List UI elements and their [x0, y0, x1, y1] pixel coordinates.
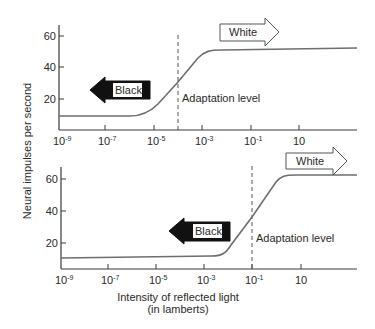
bottom-x-tick-1e-9: 10-9 [55, 274, 74, 286]
bottom-panel: 60 40 20 10-9 10-7 10-5 10-3 10-1 10 Ada [46, 147, 357, 315]
top-y-tick-20: 20 [44, 93, 56, 105]
x-axis-title-line2: (in lamberts) [147, 303, 208, 315]
bottom-y-tick-60: 60 [46, 173, 58, 185]
bottom-x-tick-1e-3: 10-3 [197, 274, 216, 286]
bottom-black-label: Black [195, 225, 222, 237]
top-black-label: Black [115, 84, 142, 96]
bottom-black-arrow: Black [169, 218, 230, 244]
top-x-tick-10: 10 [293, 135, 305, 147]
bottom-x-ticks: 10-9 10-7 10-5 10-3 10-1 10 [55, 264, 307, 286]
top-y-tick-40: 40 [44, 61, 56, 73]
x-axis-title-line1: Intensity of reflected light [117, 291, 239, 303]
top-x-tick-1e-1: 10-1 [244, 135, 263, 147]
bottom-y-tick-20: 20 [46, 237, 58, 249]
bottom-x-tick-1e-5: 10-5 [149, 274, 168, 286]
top-panel: 60 40 20 10-9 10-7 10-5 10-3 10-1 10 Ada [44, 18, 357, 147]
bottom-x-tick-1e-7: 10-7 [101, 274, 120, 286]
top-y-tick-60: 60 [44, 30, 56, 42]
y-axis-title: Neural impulses per second [21, 83, 33, 219]
top-y-ticks: 60 40 20 [44, 30, 64, 105]
top-x-tick-1e-5: 10-5 [147, 135, 166, 147]
top-x-tick-1e-7: 10-7 [98, 135, 117, 147]
bottom-x-tick-1e-1: 10-1 [245, 274, 264, 286]
top-x-tick-1e-9: 10-9 [53, 135, 72, 147]
top-x-tick-1e-3: 10-3 [195, 135, 214, 147]
adaptation-level-figure: Neural impulses per second 60 40 20 [0, 0, 375, 329]
bottom-y-tick-40: 40 [46, 205, 58, 217]
bottom-x-tick-10: 10 [295, 274, 307, 286]
bottom-white-arrow: White [286, 147, 347, 175]
top-white-label: White [229, 26, 257, 38]
top-x-ticks: 10-9 10-7 10-5 10-3 10-1 10 [53, 125, 305, 147]
bottom-adaptation-label: Adaptation level [256, 232, 334, 244]
top-white-arrow: White [220, 18, 279, 46]
top-black-arrow: Black [90, 77, 150, 103]
bottom-white-label: White [296, 155, 324, 167]
bottom-response-curve [61, 175, 357, 258]
bottom-y-ticks: 60 40 20 [46, 173, 66, 249]
top-adaptation-label: Adaptation level [182, 92, 260, 104]
